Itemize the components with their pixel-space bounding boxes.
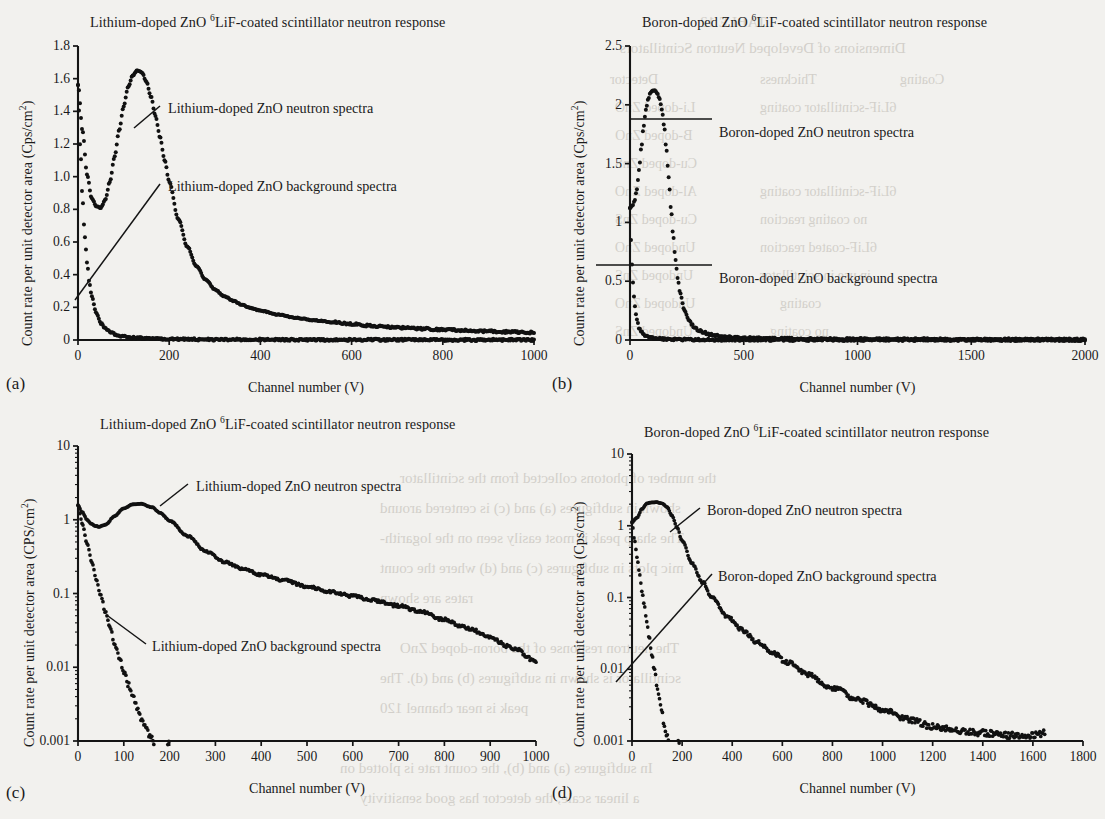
x-tick-label: 300 — [205, 749, 225, 765]
annotation-leader-lines — [596, 119, 712, 265]
y-tick-label: 0.5 — [605, 273, 622, 289]
x-tick-label: 400 — [250, 348, 270, 364]
data-series — [76, 503, 170, 746]
x-tick-label: 1400 — [969, 749, 996, 765]
data-series — [76, 83, 536, 343]
x-tick-label: 1000 — [869, 749, 896, 765]
y-tick-label: 2.5 — [605, 38, 622, 54]
y-tick-label: 2 — [615, 97, 622, 113]
y-tick-label: 0.1 — [607, 590, 624, 606]
x-tick-label: 1000 — [844, 348, 871, 364]
y-tick-label: 1.8 — [53, 38, 70, 54]
x-tick-label: 500 — [297, 749, 317, 765]
x-tick-label: 200 — [159, 749, 179, 765]
y-tick-label: 0.01 — [46, 659, 70, 675]
annotation-background-spectra: Boron-doped ZnO background spectra — [719, 270, 938, 287]
x-tick-label: 800 — [433, 348, 453, 364]
y-tick-label: 1.2 — [53, 136, 70, 152]
y-tick-label: 1.6 — [53, 71, 70, 87]
x-tick-label: 600 — [341, 348, 361, 364]
y-tick-label: 1 — [63, 512, 70, 528]
y-tick-label: 1.4 — [53, 103, 70, 119]
x-tick-label: 600 — [343, 749, 363, 765]
annotation-neutron-spectra: Boron-doped ZnO neutron spectra — [719, 124, 914, 141]
x-tick-label: 1600 — [1019, 749, 1046, 765]
x-tick-label: 400 — [251, 749, 271, 765]
y-tick-label: 10 — [610, 446, 624, 462]
y-tick-label: 0.001 — [39, 733, 70, 749]
y-tick-label: 0.6 — [53, 234, 70, 250]
panel-d: Boron-doped ZnO 6LiF-coated scintillator… — [552, 410, 1105, 819]
axis-lines — [630, 46, 1085, 340]
y-tick-label: 0.4 — [53, 267, 70, 283]
y-tick-label: 10 — [56, 438, 70, 454]
x-tick-label: 2000 — [1071, 348, 1098, 364]
annotation-background-spectra: Lithium-doped ZnO background spectra — [168, 178, 397, 195]
data-series — [630, 520, 681, 745]
y-tick-label: 1.0 — [53, 169, 70, 185]
x-tick-label: 0 — [627, 348, 634, 364]
x-tick-label: 0 — [75, 348, 82, 364]
y-tick-label: 1 — [617, 518, 624, 534]
x-tick-label: 700 — [388, 749, 408, 765]
annotation-neutron-spectra: Boron-doped ZnO neutron spectra — [707, 502, 902, 519]
x-tick-label: 1000 — [520, 348, 547, 364]
annotation-background-spectra: Lithium-doped ZnO background spectra — [152, 638, 381, 655]
figure-four-panel-neutron-response: Lithium-doped ZnO 6LiF-coated scintillat… — [0, 0, 1105, 819]
plot-canvas — [0, 410, 552, 819]
x-tick-label: 500 — [734, 348, 754, 364]
annotation-neutron-spectra: Lithium-doped ZnO neutron spectra — [168, 100, 373, 117]
y-tick-label: 0.01 — [600, 661, 624, 677]
y-tick-label: 0 — [615, 332, 622, 348]
y-tick-label: 0.2 — [53, 299, 70, 315]
annotation-neutron-spectra: Lithium-doped ZnO neutron spectra — [196, 478, 401, 495]
y-tick-label: 1 — [615, 214, 622, 230]
y-tick-label: 1.5 — [605, 156, 622, 172]
y-tick-label: 0 — [63, 332, 70, 348]
x-tick-label: 0 — [629, 749, 636, 765]
x-tick-label: 800 — [822, 749, 842, 765]
x-tick-label: 200 — [159, 348, 179, 364]
plot-canvas — [0, 0, 552, 410]
x-tick-label: 1800 — [1069, 749, 1096, 765]
x-tick-label: 200 — [672, 749, 692, 765]
x-tick-label: 1000 — [522, 749, 549, 765]
plot-canvas — [552, 0, 1105, 410]
panel-b: Boron-doped ZnO 6LiF-coated scintillator… — [552, 0, 1105, 410]
panel-c: Lithium-doped ZnO 6LiF-coated scintillat… — [0, 410, 552, 819]
annotation-leader-lines — [616, 508, 712, 682]
x-tick-label: 0 — [75, 749, 82, 765]
y-tick-label: 0.8 — [53, 201, 70, 217]
x-tick-label: 400 — [722, 749, 742, 765]
y-tick-label: 0.001 — [593, 733, 624, 749]
data-series — [630, 500, 1046, 740]
x-tick-label: 900 — [480, 749, 500, 765]
x-tick-label: 600 — [772, 749, 792, 765]
x-tick-label: 1200 — [919, 749, 946, 765]
x-tick-label: 1500 — [958, 348, 985, 364]
annotation-background-spectra: Boron-doped ZnO background spectra — [718, 568, 937, 585]
panel-a: Lithium-doped ZnO 6LiF-coated scintillat… — [0, 0, 552, 410]
x-tick-label: 100 — [114, 749, 134, 765]
y-tick-label: 0.1 — [53, 586, 70, 602]
x-tick-label: 800 — [434, 749, 454, 765]
